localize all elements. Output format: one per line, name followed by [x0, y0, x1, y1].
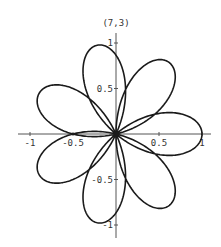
- x-tick-label: 1: [199, 138, 204, 148]
- x-tick-label: -0.5: [62, 138, 84, 148]
- x-tick-label: 0.5: [151, 138, 167, 148]
- y-tick-label: 1: [108, 38, 113, 48]
- chart-title: (7,3): [102, 18, 129, 28]
- x-tick-label: -1: [25, 138, 36, 148]
- y-tick-label: -0.5: [91, 175, 113, 185]
- rose-curve-plot: (7,3) -1-0.50.51 10.5-0.5-1: [0, 0, 221, 247]
- y-tick-label: 0.5: [97, 84, 113, 94]
